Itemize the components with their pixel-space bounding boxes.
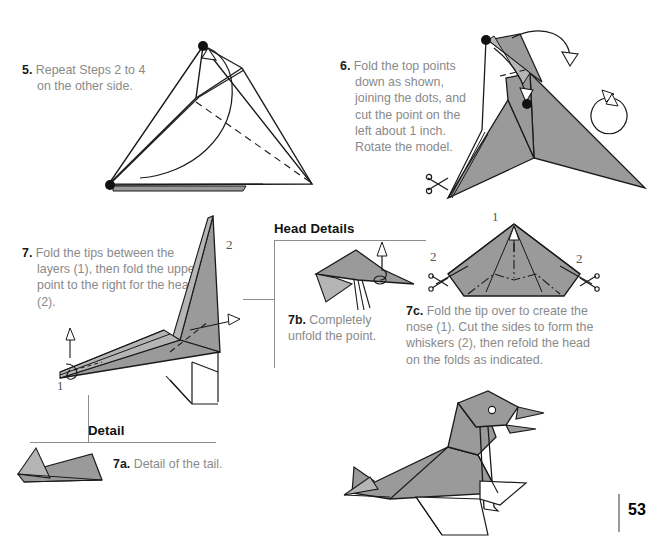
step-7b-number: 7b.: [288, 313, 306, 327]
eye: [488, 406, 495, 413]
step-7b-figure: [296, 240, 426, 312]
reference-dot-top: [198, 41, 208, 51]
scissors-icon: [426, 174, 448, 193]
head-details-left-rule: [274, 240, 275, 368]
book-page: 5. Repeat Steps 2 to 4 on the other side…: [0, 0, 662, 537]
detail-leader: [30, 442, 88, 443]
step-7c-body: Fold the tip over to create the nose (1)…: [406, 304, 593, 367]
step-6-number: 6.: [340, 59, 350, 73]
step-6-figure: [390, 18, 655, 203]
step-5-number: 5.: [22, 63, 32, 77]
reference-dot-lower: [522, 99, 532, 109]
step-7a-text: 7a. Detail of the tail.: [113, 456, 273, 472]
step-7c-label-2-right: 2: [576, 251, 583, 267]
page-number: 53: [628, 501, 646, 519]
step-7c-number: 7c.: [406, 304, 423, 318]
step-7c-text: 7c. Fold the tip over to create the nose…: [406, 303, 606, 368]
finished-model-figure: [330, 385, 620, 537]
detail-heading: Detail: [88, 423, 125, 438]
step-7-label-2: 2: [226, 237, 233, 253]
reference-dot-bottom: [105, 180, 115, 190]
step-7c-label-1: 1: [492, 209, 499, 225]
reference-dot-upper: [481, 35, 491, 45]
step-7c-label-2-left: 2: [430, 249, 437, 265]
detail-left-rule: [88, 395, 89, 442]
step-7a-number: 7a.: [113, 457, 130, 471]
head-details-heading: Head Details: [274, 221, 354, 236]
step-7b-text: 7b. Completely unfold the point.: [288, 312, 392, 344]
detail-top-rule: [88, 442, 216, 443]
page-number-rule: [618, 494, 620, 532]
step-7-label-1: 1: [57, 378, 64, 394]
rotate-symbol: [591, 90, 627, 134]
step-7-figure: [40, 212, 270, 407]
step-5-figure: [80, 18, 330, 198]
step-7a-body: Detail of the tail.: [134, 457, 223, 471]
step-7a-figure: [14, 444, 114, 492]
step-7-number: 7.: [22, 246, 32, 260]
head-details-leader: [243, 299, 275, 300]
